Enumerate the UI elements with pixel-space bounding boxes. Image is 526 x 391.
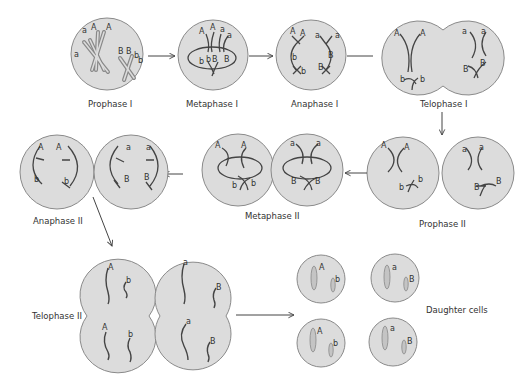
svg-text:B: B: [126, 47, 132, 56]
svg-text:A: A: [199, 27, 205, 36]
svg-text:b: b: [138, 56, 143, 65]
svg-text:a: a: [481, 27, 486, 36]
label-telophase-1: Telophase I: [420, 99, 467, 109]
prophase-1-cell: a A A a B B b b: [71, 18, 143, 90]
svg-text:B: B: [328, 51, 334, 60]
telophase-2-cell: A b A b a B a B: [80, 258, 231, 373]
svg-text:b: b: [399, 183, 404, 192]
svg-text:b: b: [420, 75, 425, 84]
svg-text:A: A: [210, 23, 216, 32]
svg-text:b: b: [206, 55, 211, 64]
svg-text:b: b: [232, 181, 237, 190]
svg-text:A: A: [102, 323, 108, 332]
svg-text:a: a: [186, 317, 191, 326]
svg-text:A: A: [394, 29, 400, 38]
svg-text:a: a: [227, 31, 232, 40]
svg-text:B: B: [463, 65, 469, 74]
anaphase-1-cell: A A b b a a B B: [276, 20, 346, 90]
prophase-2-cell: A A b b a a B B: [367, 137, 514, 209]
svg-text:a: a: [390, 324, 395, 333]
metaphase-2-cell: A A b b a a B B: [202, 134, 343, 206]
svg-text:B: B: [216, 283, 222, 292]
svg-text:a: a: [392, 263, 397, 272]
svg-text:B: B: [291, 177, 297, 186]
svg-text:a: a: [462, 27, 467, 36]
svg-text:B: B: [407, 337, 413, 346]
svg-text:a: a: [74, 50, 79, 59]
svg-text:A: A: [241, 141, 247, 150]
anaphase-2-cell: A A b b a a B B: [20, 135, 168, 209]
label-prophase-2: Prophase II: [419, 219, 466, 229]
svg-text:a: a: [183, 258, 188, 267]
svg-text:B: B: [480, 59, 486, 68]
svg-text:b: b: [199, 57, 204, 66]
svg-text:b: b: [34, 175, 39, 184]
svg-text:a: a: [290, 139, 295, 148]
svg-text:A: A: [319, 263, 325, 272]
svg-text:a: a: [315, 31, 320, 40]
daughter-cell-3: A b: [297, 319, 345, 367]
daughter-cell-2: a B: [371, 254, 419, 302]
daughter-cell-4: a B: [369, 318, 417, 366]
label-anaphase-1: Anaphase I: [291, 99, 338, 109]
label-anaphase-2: Anaphase II: [33, 216, 83, 226]
svg-text:A: A: [290, 27, 296, 36]
svg-text:a: a: [146, 143, 151, 152]
svg-text:A: A: [404, 143, 410, 152]
svg-text:B: B: [118, 47, 124, 56]
svg-text:B: B: [318, 63, 324, 72]
svg-text:a: a: [82, 26, 87, 35]
svg-text:a: a: [316, 139, 321, 148]
label-prophase-1: Prophase I: [88, 99, 132, 109]
svg-text:B: B: [496, 177, 502, 186]
metaphase-1-cell: A A a a b b B B: [178, 20, 248, 90]
svg-text:A: A: [108, 263, 114, 272]
label-telophase-2: Telophase II: [32, 311, 82, 321]
svg-text:B: B: [124, 175, 130, 184]
svg-text:b: b: [126, 276, 131, 285]
svg-text:b: b: [333, 339, 338, 348]
svg-text:b: b: [64, 177, 69, 186]
telophase-1-cell: A A b b a a B B: [382, 21, 504, 95]
svg-text:B: B: [409, 275, 415, 284]
svg-text:A: A: [381, 141, 387, 150]
svg-text:a: a: [479, 143, 484, 152]
svg-text:a: a: [220, 25, 225, 34]
label-metaphase-2: Metaphase II: [245, 211, 299, 221]
svg-text:A: A: [56, 143, 62, 152]
svg-text:A: A: [300, 29, 306, 38]
svg-text:A: A: [215, 141, 221, 150]
daughter-cell-1: A b: [297, 255, 345, 303]
label-metaphase-1: Metaphase I: [186, 99, 238, 109]
meiosis-diagram: a A A a B B b b A A a a b b B B: [0, 0, 526, 391]
svg-text:b: b: [251, 179, 256, 188]
svg-text:a: a: [335, 31, 340, 40]
svg-text:A: A: [38, 143, 44, 152]
svg-text:B: B: [224, 55, 230, 64]
svg-text:b: b: [292, 53, 297, 62]
svg-text:b: b: [128, 330, 133, 339]
svg-text:b: b: [301, 67, 306, 76]
svg-text:A: A: [106, 23, 112, 32]
arrow-7: [93, 197, 112, 246]
svg-text:B: B: [212, 55, 218, 64]
svg-text:b: b: [400, 75, 405, 84]
svg-text:b: b: [418, 175, 423, 184]
daughter-cells: A b a B A b a B: [297, 254, 419, 367]
svg-text:A: A: [317, 327, 323, 336]
svg-text:A: A: [91, 23, 97, 32]
svg-text:a: a: [126, 143, 131, 152]
svg-text:B: B: [474, 183, 480, 192]
svg-text:B: B: [144, 173, 150, 182]
svg-text:B: B: [210, 337, 216, 346]
svg-text:B: B: [315, 177, 321, 186]
svg-text:a: a: [462, 145, 467, 154]
svg-text:b: b: [335, 275, 340, 284]
svg-text:A: A: [420, 29, 426, 38]
label-daughter-cells: Daughter cells: [426, 305, 488, 315]
